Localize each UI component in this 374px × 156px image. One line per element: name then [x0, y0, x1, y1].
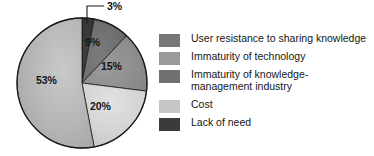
legend-swatch-icon-user-resistance	[159, 34, 180, 47]
legend-swatch-icon-lack-of-need	[159, 118, 180, 131]
pie-label-15-percent: 15%	[101, 61, 122, 72]
legend-label-lack-of-need: Lack of need	[191, 117, 251, 129]
legend-swatch-icon-cost	[159, 100, 180, 113]
pie-chart: 3% 9% 15% 20% 53%	[0, 0, 160, 156]
legend-item-cost[interactable]: Cost	[159, 99, 371, 113]
legend-label-cost: Cost	[191, 99, 213, 111]
legend-swatch-icon-immaturity-of-technology	[159, 52, 180, 65]
legend: User resistance to sharing knowledge Imm…	[159, 33, 371, 135]
legend-item-immaturity-of-km-industry[interactable]: Immaturity of knowledge- management indu…	[159, 69, 371, 92]
legend-item-user-resistance[interactable]: User resistance to sharing knowledge	[159, 33, 371, 47]
pie-label-53-percent: 53%	[36, 75, 57, 86]
legend-item-lack-of-need[interactable]: Lack of need	[159, 117, 371, 131]
pie-label-3-percent: 3%	[107, 1, 122, 12]
legend-item-immaturity-of-technology[interactable]: Immaturity of technology	[159, 51, 371, 65]
pie-label-9-percent: 9%	[85, 37, 100, 48]
legend-swatch-icon-immaturity-of-km-industry	[159, 70, 180, 83]
pie-label-20-percent: 20%	[90, 101, 111, 112]
legend-label-user-resistance: User resistance to sharing knowledge	[191, 33, 366, 45]
pie-chart-graphic	[0, 0, 160, 156]
legend-label-immaturity-of-km-industry: Immaturity of knowledge- management indu…	[191, 69, 308, 92]
legend-label-immaturity-of-technology: Immaturity of technology	[191, 51, 305, 63]
pie-chart-figure: 3% 9% 15% 20% 53% User resistance to sha…	[0, 0, 374, 156]
